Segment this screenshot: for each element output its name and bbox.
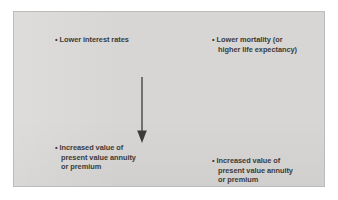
down-arrow-icon-left [131,77,153,145]
effect-text-interest-rates: • Increased value of present value annui… [55,143,181,172]
diagram-panel: • Lower interest rates • Increased value… [13,11,325,187]
figure-root: • Lower interest rates • Increased value… [0,0,338,200]
cause-text-interest-rates: • Lower interest rates [55,35,181,45]
cause-text-mortality: • Lower mortality (or higher life expect… [212,35,338,54]
effect-text-mortality: • Increased value of present value annui… [212,156,338,185]
